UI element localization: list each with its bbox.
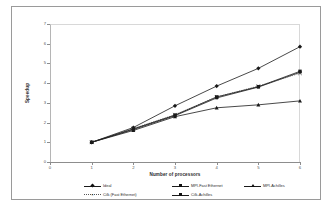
x-tick-mark (258, 163, 259, 165)
legend-marker-icon (84, 183, 101, 189)
series-lines (50, 24, 300, 162)
legend-label: MPI-Achilles (263, 184, 285, 188)
legend-label: MPI-Fast Ethernet (191, 184, 223, 188)
x-tick-label: 3 (174, 166, 176, 170)
x-tick-label: 4 (215, 166, 217, 170)
legend-label: Ideal (103, 184, 111, 188)
x-axis-label: Number of processors (50, 172, 300, 177)
data-point-marker (173, 104, 177, 108)
data-point-marker (256, 66, 260, 70)
y-tick-label: 3 (44, 101, 46, 105)
legend-row: ×Cilk (Fast Ethernet)Cilk-Achilles (84, 191, 289, 199)
legend-item[interactable]: Cilk-Achilles (172, 191, 212, 199)
y-tick-label: 6 (44, 42, 46, 46)
data-point-marker (215, 84, 219, 88)
y-tick-label: 5 (44, 61, 46, 65)
legend-row: IdealMPI-Fast EthernetMPI-Achilles (84, 182, 289, 190)
y-tick-label: 1 (44, 140, 46, 144)
y-axis-ticks: 01234567 (12, 24, 50, 162)
data-point-marker (90, 141, 93, 144)
legend-marker-icon: × (84, 192, 101, 198)
x-tick-mark (217, 163, 218, 165)
series-0 (90, 45, 303, 145)
x-tick-label: 1 (90, 166, 92, 170)
x-tick-mark (133, 163, 134, 165)
legend-marker-icon (172, 192, 189, 198)
legend-item[interactable]: Ideal (84, 182, 111, 190)
x-tick-label: 5 (257, 166, 259, 170)
y-tick-label: 7 (44, 22, 46, 26)
y-tick-label: 0 (44, 160, 46, 164)
legend-item[interactable]: MPI-Fast Ethernet (172, 182, 223, 190)
x-tick-mark (300, 163, 301, 165)
data-point-marker (215, 95, 218, 98)
data-point-marker (132, 127, 135, 130)
x-tick-label: 0 (49, 166, 51, 170)
figure-frame: Speedup 01234567 0123456 Number of proce… (11, 6, 321, 200)
x-tick-mark (92, 163, 93, 165)
plot-area (50, 24, 300, 162)
x-tick-mark (175, 163, 176, 165)
x-tick-mark (50, 163, 51, 165)
legend-item[interactable]: ×Cilk (Fast Ethernet) (84, 191, 137, 199)
series-line (92, 47, 300, 143)
legend-item[interactable]: MPI-Achilles (244, 182, 285, 190)
legend-marker-icon (172, 183, 189, 189)
y-tick-label: 2 (44, 120, 46, 124)
data-point-marker (173, 113, 176, 116)
y-tick-label: 4 (44, 81, 46, 85)
data-point-marker (298, 45, 302, 49)
x-tick-label: 2 (132, 166, 134, 170)
legend-label: Cilk (Fast Ethernet) (103, 193, 137, 197)
legend-marker-icon (244, 183, 261, 189)
data-point-marker (298, 70, 301, 73)
data-point-marker (257, 85, 260, 88)
legend-label: Cilk-Achilles (191, 193, 212, 197)
x-tick-label: 6 (299, 166, 301, 170)
chart-legend: IdealMPI-Fast EthernetMPI-Achilles×Cilk … (84, 182, 289, 201)
